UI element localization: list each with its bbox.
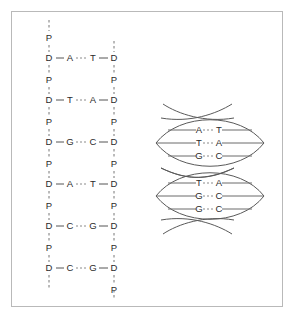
backbone-label-right: P <box>111 242 117 253</box>
helix-base-left: G <box>195 190 202 201</box>
backbone-label-left: P <box>46 200 52 211</box>
ladder-base-right: A <box>90 94 97 105</box>
helix-base-right: C <box>216 150 223 161</box>
helix-base-right: T <box>216 124 222 135</box>
helix-base-left: G <box>195 150 202 161</box>
backbone-label-right: P <box>111 284 117 295</box>
backbone-label-left: P <box>46 158 52 169</box>
helix-base-left: A <box>196 124 203 135</box>
figure-canvas: P D P D P D P D P D P D D P D P D P D P … <box>0 0 296 321</box>
helix-base-right: C <box>216 203 223 214</box>
helix-strand-bottom <box>161 219 234 234</box>
backbone-label-left: D <box>46 262 53 273</box>
ladder-base-left: A <box>67 178 74 189</box>
ladder-base-right: G <box>89 220 96 231</box>
backbone-label-left: D <box>46 94 53 105</box>
backbone-label-right: P <box>111 200 117 211</box>
backbone-label-right: D <box>111 220 118 231</box>
helix-strand-top <box>161 104 234 119</box>
helix-turn <box>156 120 264 167</box>
ladder-base-right: C <box>90 136 97 147</box>
ladder-base-left: C <box>67 262 74 273</box>
ladder-base-left: G <box>66 136 73 147</box>
ladder-base-left: T <box>67 94 73 105</box>
ladder-base-right: T <box>90 52 96 63</box>
backbone-label-left: D <box>46 220 53 231</box>
backbone-label-right: P <box>111 74 117 85</box>
backbone-label-left: P <box>46 116 52 127</box>
dna-diagram: P D P D P D P D P D P D D P D P D P D P … <box>0 0 296 321</box>
helix-base-left: G <box>195 203 202 214</box>
backbone-label-right: D <box>111 262 118 273</box>
backbone-label-left: D <box>46 136 53 147</box>
backbone-label-left: P <box>46 74 52 85</box>
backbone-label-right: D <box>111 136 118 147</box>
helix-base-left: T <box>196 177 202 188</box>
backbone-label-left: D <box>46 178 53 189</box>
helix-base-right: C <box>216 190 223 201</box>
ladder-base-right: T <box>90 178 96 189</box>
backbone-label-right: D <box>111 52 118 63</box>
backbone-label-left: P <box>46 242 52 253</box>
helix-diagram: A T T A G C T A G C G C <box>156 104 264 234</box>
backbone-label-right: D <box>111 178 118 189</box>
helix-turn <box>156 173 264 220</box>
helix-base-right: A <box>216 177 223 188</box>
backbone-label-right: D <box>111 94 118 105</box>
helix-base-left: T <box>196 137 202 148</box>
ladder-base-right: G <box>89 262 96 273</box>
ladder-base-left: A <box>67 52 74 63</box>
ladder-base-left: C <box>67 220 74 231</box>
backbone-label-left: D <box>46 52 53 63</box>
backbone-label-right: P <box>111 158 117 169</box>
backbone-label-right: P <box>111 116 117 127</box>
ladder-diagram: P D P D P D P D P D P D D P D P D P D P … <box>46 20 118 300</box>
backbone-label-left: P <box>46 32 52 43</box>
helix-base-right: A <box>216 137 223 148</box>
